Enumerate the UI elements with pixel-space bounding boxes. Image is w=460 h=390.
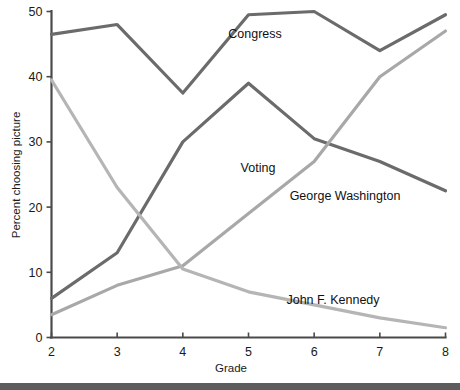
y-tick-label: 0 [36,331,43,345]
chart-plot-area: 01020304050 2345678 CongressVotingGeorge… [0,0,460,390]
series-line-congress [52,12,446,94]
y-tick-label: 30 [29,135,43,149]
x-tick-label: 4 [179,345,186,359]
x-tick-label: 3 [114,345,121,359]
y-tick-label: 20 [29,201,43,215]
x-tick-label: 5 [245,345,252,359]
x-axis-title: Grade [215,362,247,374]
series-line-john-f-kennedy [52,80,446,328]
y-axis-ticks: 01020304050 [29,5,52,345]
x-tick-label: 6 [311,345,318,359]
line-chart: 01020304050 2345678 CongressVotingGeorge… [0,0,460,390]
x-tick-label: 8 [442,345,449,359]
series-label-congress: Congress [228,27,282,41]
x-tick-label: 7 [376,345,383,359]
y-tick-label: 10 [29,266,43,280]
y-tick-label: 50 [29,5,43,19]
series-label-john-f-kennedy: John F. Kennedy [286,293,380,307]
series-label-group: CongressVotingGeorge WashingtonJohn F. K… [228,27,400,307]
series-label-george-washington: George Washington [290,189,401,203]
y-tick-label: 40 [29,70,43,84]
y-axis-title: Percent choosing picture [10,112,22,239]
x-tick-label: 2 [48,345,55,359]
bottom-rule [0,383,460,390]
series-label-voting: Voting [241,161,276,175]
